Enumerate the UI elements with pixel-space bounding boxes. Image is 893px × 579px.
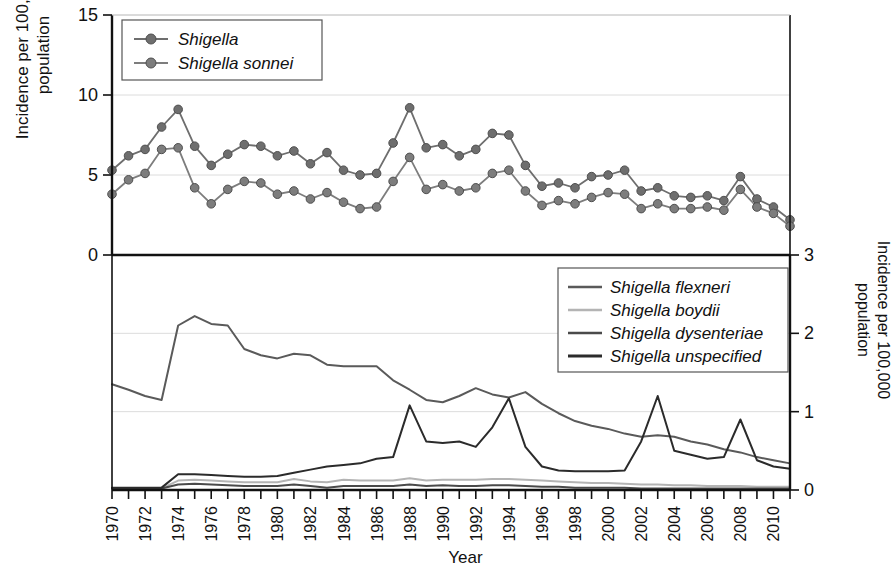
top-marker	[273, 190, 282, 199]
top-marker	[240, 177, 249, 186]
top-marker	[157, 145, 166, 154]
top-marker	[505, 131, 514, 140]
top-marker	[736, 185, 745, 194]
top-marker	[372, 203, 381, 212]
x-tick-label: 1994	[501, 506, 518, 542]
bottom-legend-label-2[interactable]: Shigella dysenteriae	[610, 324, 763, 343]
y-tick-label-right: 3	[804, 245, 814, 265]
top-marker	[604, 188, 613, 197]
top-marker	[389, 177, 398, 186]
top-marker	[488, 129, 497, 138]
top-marker	[620, 166, 629, 175]
top-marker	[703, 192, 712, 201]
top-marker	[190, 184, 199, 193]
top-marker	[670, 204, 679, 213]
x-tick-label: 1996	[534, 506, 551, 542]
top-marker	[587, 172, 596, 181]
bottom-line-3	[112, 396, 790, 488]
top-marker	[571, 184, 580, 193]
y-tick-label-right: 2	[804, 323, 814, 343]
x-tick-label: 1972	[137, 506, 154, 542]
x-axis-label-wrap: Year	[0, 548, 883, 568]
top-marker	[670, 192, 679, 201]
y-tick-label-left: 10	[78, 85, 98, 105]
top-marker	[653, 184, 662, 193]
top-legend-marker-0	[146, 34, 156, 44]
y-tick-label-right: 0	[804, 480, 814, 500]
top-line-1	[112, 148, 790, 226]
y-tick-label-right: 1	[804, 402, 814, 422]
left-y-axis-label-line2: population	[34, 16, 53, 94]
top-marker	[306, 195, 315, 204]
x-tick-label: 1998	[567, 506, 584, 542]
top-marker	[472, 145, 481, 154]
bottom-legend-label-1[interactable]: Shigella boydii	[610, 301, 721, 320]
top-marker	[521, 187, 530, 196]
x-tick-label: 2006	[699, 506, 716, 542]
top-marker	[290, 187, 299, 196]
top-marker	[438, 180, 447, 189]
top-marker	[538, 201, 547, 210]
top-legend-label-0[interactable]: Shigella	[178, 30, 239, 49]
top-marker	[554, 179, 563, 188]
right-y-axis-label-line2: population	[855, 283, 872, 357]
top-marker	[124, 152, 133, 161]
y-tick-label-left: 5	[88, 165, 98, 185]
top-marker	[323, 188, 332, 197]
top-marker	[356, 204, 365, 213]
top-marker	[472, 184, 481, 193]
top-marker	[273, 152, 282, 161]
top-marker	[257, 142, 266, 151]
top-marker	[438, 140, 447, 149]
top-marker	[405, 153, 414, 162]
top-marker	[604, 171, 613, 180]
x-tick-label: 2004	[666, 506, 683, 542]
top-marker	[290, 147, 299, 156]
left-y-axis-label: Incidence per 100,000 population	[12, 0, 54, 180]
top-marker	[637, 204, 646, 213]
x-tick-label: 1976	[203, 506, 220, 542]
top-marker	[372, 169, 381, 178]
bottom-legend-label-3[interactable]: Shigella unspecified	[610, 347, 762, 366]
x-tick-label: 1982	[302, 506, 319, 542]
x-tick-label: 2000	[600, 506, 617, 542]
top-marker	[720, 196, 729, 205]
top-marker	[124, 176, 133, 185]
x-tick-label: 1992	[468, 506, 485, 542]
top-marker	[455, 187, 464, 196]
top-marker	[505, 166, 514, 175]
x-tick-label: 1986	[369, 506, 386, 542]
top-marker	[686, 193, 695, 202]
bottom-line-1	[112, 478, 790, 488]
right-y-axis-label-line1: Incidence per 100,000	[875, 241, 892, 399]
top-marker	[223, 150, 232, 159]
x-tick-label: 1980	[269, 506, 286, 542]
top-marker	[720, 206, 729, 215]
top-marker	[389, 139, 398, 148]
top-marker	[455, 152, 464, 161]
left-y-axis-label-line1: Incidence per 100,000	[13, 0, 32, 139]
top-legend-label-1[interactable]: Shigella sonnei	[178, 54, 295, 73]
x-tick-label: 1974	[170, 506, 187, 542]
top-marker	[637, 187, 646, 196]
bottom-legend-label-0[interactable]: Shigella flexneri	[610, 278, 731, 297]
top-marker	[488, 169, 497, 178]
top-marker	[753, 203, 762, 212]
top-marker	[686, 204, 695, 213]
x-tick-label: 1970	[104, 506, 121, 542]
top-marker	[422, 185, 431, 194]
top-marker	[521, 161, 530, 170]
top-marker	[257, 179, 266, 188]
x-tick-label: 1990	[435, 506, 452, 542]
top-marker	[736, 172, 745, 181]
top-marker	[538, 182, 547, 191]
x-tick-label: 2010	[765, 506, 782, 542]
top-marker	[769, 209, 778, 218]
top-marker	[571, 200, 580, 209]
top-marker	[223, 185, 232, 194]
top-marker	[174, 144, 183, 153]
x-tick-label: 1988	[402, 506, 419, 542]
x-axis-label: Year	[448, 548, 482, 567]
top-marker	[207, 161, 216, 170]
